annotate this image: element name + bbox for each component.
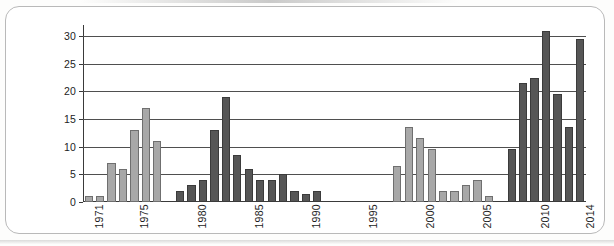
x-tick-label-1990: 1990 [310, 204, 322, 229]
bar-series [83, 25, 586, 202]
bar-2006 [485, 196, 493, 202]
bar-1980 [187, 185, 195, 202]
bar-1989 [290, 191, 298, 202]
y-tick-label-15: 15 [64, 113, 76, 125]
bar-2008 [508, 149, 516, 202]
x-axis-tick-labels: 1971197519801985199019952000200520102014 [83, 204, 586, 246]
bar-1974 [119, 169, 127, 202]
bar-2014 [576, 39, 584, 202]
plot-area: 051015202530 [83, 25, 586, 202]
bar-2005 [473, 180, 481, 202]
bar-1999 [405, 127, 413, 202]
x-tick-label-2005: 2005 [481, 204, 493, 229]
bar-1987 [268, 180, 276, 202]
bar-2009 [519, 83, 527, 202]
bar-2001 [428, 149, 436, 202]
bar-2011 [542, 31, 550, 202]
bar-1977 [153, 141, 161, 202]
x-tick-label-1985: 1985 [253, 204, 265, 229]
y-tick-label-25: 25 [64, 58, 76, 70]
bar-2000 [416, 138, 424, 202]
bar-1975 [130, 130, 138, 202]
bar-1988 [279, 174, 287, 202]
bar-2012 [553, 94, 561, 202]
x-tick-label-1975: 1975 [138, 204, 150, 229]
bar-1973 [107, 163, 115, 202]
x-tick-label-1995: 1995 [367, 204, 379, 229]
bar-2003 [450, 191, 458, 202]
y-tick-label-30: 30 [64, 30, 76, 42]
bar-1984 [233, 155, 241, 202]
bar-1979 [176, 191, 184, 202]
bar-1981 [199, 180, 207, 202]
y-tick-label-10: 10 [64, 141, 76, 153]
x-tick-label-2000: 2000 [424, 204, 436, 229]
y-tick-mark-0 [79, 202, 83, 203]
bar-2010 [530, 78, 538, 202]
bar-1990 [302, 194, 310, 202]
y-tick-label-0: 0 [70, 196, 76, 208]
x-tick-label-2010: 2010 [539, 204, 551, 229]
bar-1982 [210, 130, 218, 202]
bar-1971 [85, 196, 93, 202]
bar-1972 [96, 196, 104, 202]
y-tick-label-20: 20 [64, 85, 76, 97]
bar-2013 [565, 127, 573, 202]
x-tick-label-1980: 1980 [196, 204, 208, 229]
bar-1991 [313, 191, 321, 202]
bar-1986 [256, 180, 264, 202]
scan-artifact-top [80, 0, 460, 3]
bar-2002 [439, 191, 447, 202]
bar-1985 [245, 169, 253, 202]
x-tick-label-2014: 2014 [584, 204, 596, 229]
bar-2004 [462, 185, 470, 202]
bar-1976 [142, 108, 150, 202]
bar-1998 [393, 166, 401, 202]
chart-card: 051015202530 197119751980198519901995200… [5, 6, 605, 234]
x-tick-label-1971: 1971 [93, 204, 105, 229]
page-background: 051015202530 197119751980198519901995200… [0, 0, 614, 246]
y-tick-label-5: 5 [70, 168, 76, 180]
bar-1983 [222, 97, 230, 202]
